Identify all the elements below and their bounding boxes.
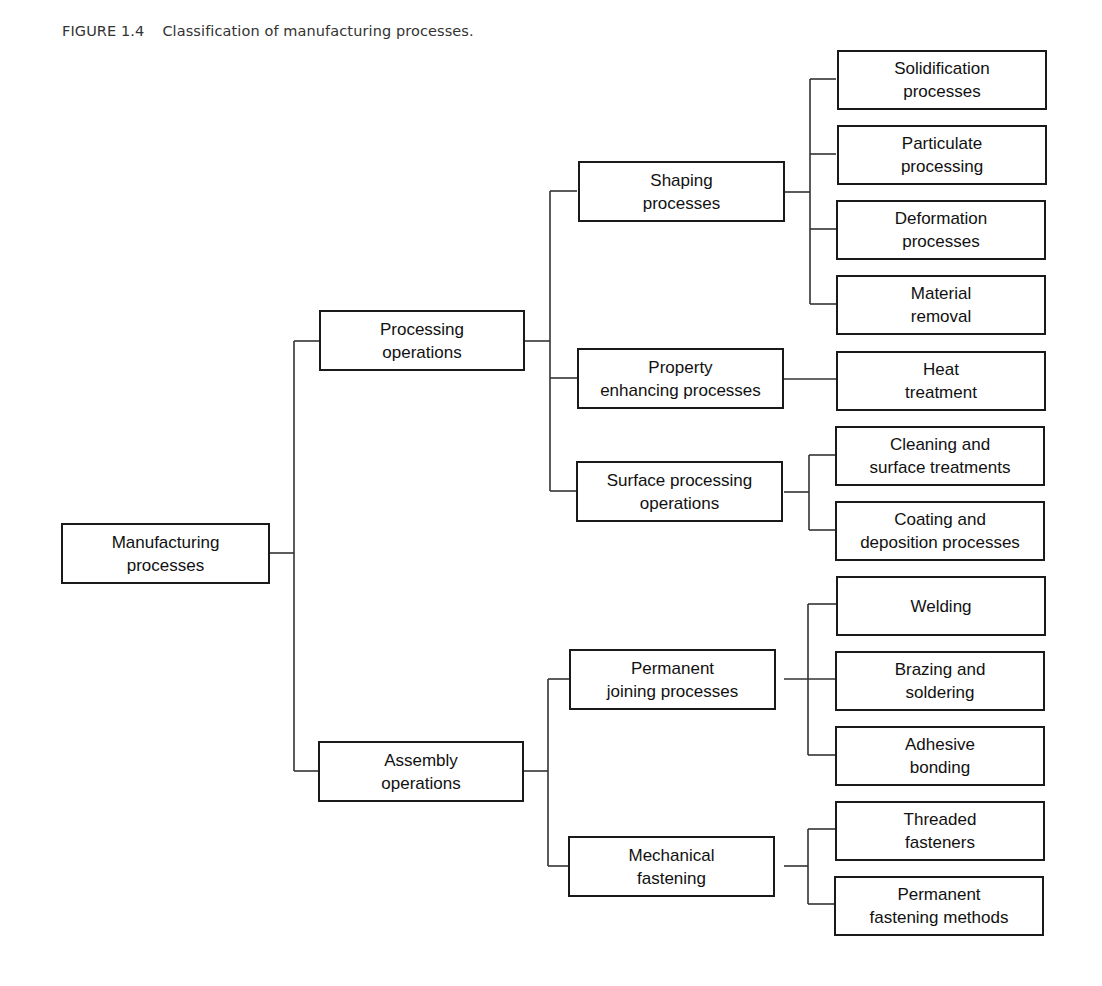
node-cleaning-and-surface-treatments: Cleaning and surface treatments bbox=[835, 426, 1045, 486]
node-label: Material removal bbox=[911, 282, 971, 328]
node-surface-processing-operations: Surface processing operations bbox=[576, 461, 783, 522]
node-label: Surface processing operations bbox=[607, 469, 753, 515]
node-property-enhancing-processes: Property enhancing processes bbox=[577, 348, 784, 409]
node-welding: Welding bbox=[836, 576, 1046, 636]
node-label: Mechanical fastening bbox=[629, 844, 715, 890]
node-label: Permanent joining processes bbox=[607, 657, 738, 703]
node-label: Welding bbox=[910, 595, 971, 618]
node-particulate-processing: Particulate processing bbox=[837, 125, 1047, 185]
node-label: Threaded fasteners bbox=[904, 808, 977, 854]
node-label: Manufacturing processes bbox=[112, 531, 220, 577]
node-permanent-fastening-methods: Permanent fastening methods bbox=[834, 876, 1044, 936]
node-label: Adhesive bonding bbox=[905, 733, 975, 779]
node-label: Particulate processing bbox=[901, 132, 983, 178]
node-label: Solidification processes bbox=[894, 57, 989, 103]
node-label: Coating and deposition processes bbox=[860, 508, 1020, 554]
node-material-removal: Material removal bbox=[836, 275, 1046, 335]
node-label: Permanent fastening methods bbox=[870, 883, 1009, 929]
node-solidification-processes: Solidification processes bbox=[837, 50, 1047, 110]
node-label: Property enhancing processes bbox=[600, 356, 761, 402]
node-brazing-and-soldering: Brazing and soldering bbox=[835, 651, 1045, 711]
node-label: Cleaning and surface treatments bbox=[870, 433, 1011, 479]
node-heat-treatment: Heat treatment bbox=[836, 351, 1046, 411]
node-coating-and-deposition-processes: Coating and deposition processes bbox=[835, 501, 1045, 561]
node-label: Processing operations bbox=[380, 318, 464, 364]
node-label: Assembly operations bbox=[381, 749, 460, 795]
node-threaded-fasteners: Threaded fasteners bbox=[835, 801, 1045, 861]
node-processing-operations: Processing operations bbox=[319, 310, 525, 371]
node-adhesive-bonding: Adhesive bonding bbox=[835, 726, 1045, 786]
node-manufacturing-processes: Manufacturing processes bbox=[61, 523, 270, 584]
node-deformation-processes: Deformation processes bbox=[836, 200, 1046, 260]
node-mechanical-fastening: Mechanical fastening bbox=[568, 836, 775, 897]
node-assembly-operations: Assembly operations bbox=[318, 741, 524, 802]
node-label: Heat treatment bbox=[905, 358, 977, 404]
node-label: Shaping processes bbox=[643, 169, 720, 215]
node-shaping-processes: Shaping processes bbox=[578, 161, 785, 222]
node-permanent-joining-processes: Permanent joining processes bbox=[569, 649, 776, 710]
node-label: Deformation processes bbox=[895, 207, 988, 253]
node-label: Brazing and soldering bbox=[895, 658, 986, 704]
